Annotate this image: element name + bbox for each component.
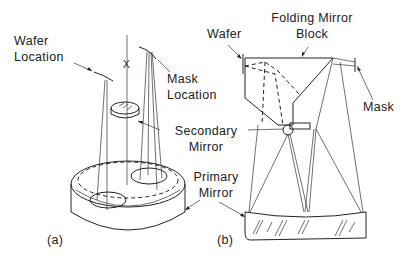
panel-b-tag: (b) [217, 233, 233, 248]
secondary-mirror-label-line2: Mirror [164, 140, 248, 155]
wafer-location-label-line2: Location [14, 50, 64, 65]
wafer-location-arc [94, 72, 113, 81]
axis-x-marker: X [123, 57, 130, 72]
folding-mirror-block-label-line1: Folding Mirror [262, 11, 362, 26]
wafer-label: Wafer [207, 27, 241, 42]
mask-location-label-line1: Mask [167, 72, 198, 87]
primary-mirror-b [245, 212, 366, 240]
secondary-mirror-label-line1: Secondary [164, 124, 248, 139]
mask-location-label-line2: Location [167, 88, 217, 103]
panel-a-tag: (a) [47, 233, 63, 248]
mask-location-arc [139, 47, 156, 59]
folding-mirror-block-label-line2: Block [262, 27, 362, 42]
primary-mirror-disk [71, 161, 185, 207]
wafer-location-label-line1: Wafer [14, 34, 48, 49]
primary-mirror-label-line1: Primary [186, 170, 246, 185]
diagram-canvas: Wafer Location Mask Location X (a) Secon… [0, 0, 407, 256]
secondary-mirror [283, 125, 293, 135]
secondary-mirror-disk [111, 102, 139, 114]
primary-mirror-label-line2: Mirror [186, 186, 246, 201]
folding-mirror-block [245, 58, 333, 125]
mask-label: Mask [363, 100, 394, 115]
